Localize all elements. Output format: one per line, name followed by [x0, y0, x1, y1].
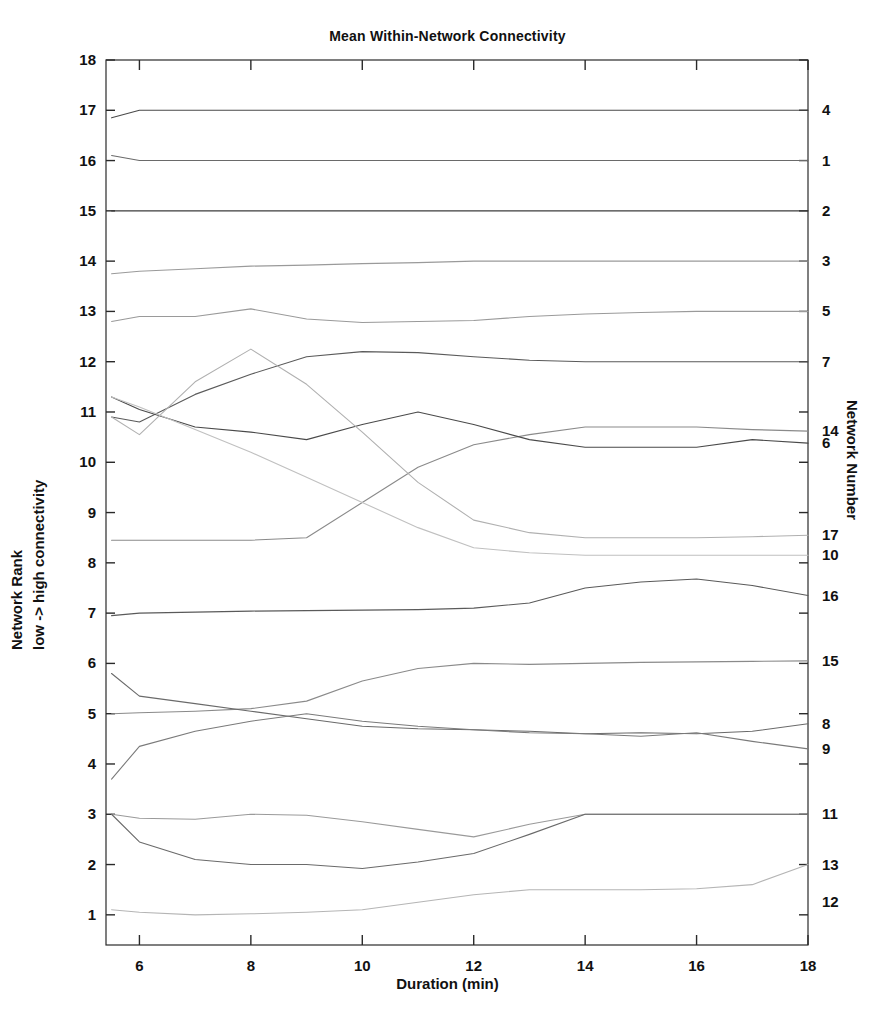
- network-number-label: 13: [822, 856, 839, 873]
- right-axis-label: Network Number: [845, 400, 895, 680]
- network-number-label: 12: [822, 893, 839, 910]
- network-number-label: 5: [822, 302, 830, 319]
- x-tick-label: 10: [354, 957, 371, 974]
- series-line-14: [112, 427, 808, 540]
- y-tick-label: 16: [79, 152, 96, 169]
- y-tick-label: 17: [79, 101, 96, 118]
- network-number-label: 3: [822, 252, 830, 269]
- series-line-16: [112, 579, 808, 616]
- plot-area: 1234567891011121314151617186810121416184…: [0, 0, 895, 1027]
- y-tick-label: 3: [88, 805, 96, 822]
- network-number-label: 7: [822, 353, 830, 370]
- network-number-label: 17: [822, 526, 839, 543]
- y-axis-label-line1: Network Rank: [8, 550, 25, 650]
- series-line-4: [112, 110, 808, 118]
- y-tick-label: 6: [88, 654, 96, 671]
- y-tick-label: 14: [79, 252, 96, 269]
- network-number-label: 2: [822, 202, 830, 219]
- y-tick-label: 10: [79, 453, 96, 470]
- network-number-label: 6: [822, 434, 830, 451]
- series-line-13: [112, 814, 808, 868]
- network-number-label: 4: [822, 101, 831, 118]
- y-tick-label: 1: [88, 906, 96, 923]
- x-tick-label: 12: [465, 957, 482, 974]
- y-tick-label: 9: [88, 504, 96, 521]
- network-number-label: 15: [822, 652, 839, 669]
- y-tick-label: 15: [79, 202, 96, 219]
- network-number-label: 9: [822, 740, 830, 757]
- y-tick-label: 7: [88, 604, 96, 621]
- right-axis-label-text: Network Number: [844, 400, 861, 520]
- series-line-6: [112, 397, 808, 447]
- y-axis-label-line2: low -> high connectivity: [30, 480, 47, 650]
- y-tick-label: 2: [88, 856, 96, 873]
- network-number-label: 10: [822, 546, 839, 563]
- series-line-17: [112, 349, 808, 538]
- series-line-12: [112, 865, 808, 915]
- y-tick-label: 13: [79, 302, 96, 319]
- y-tick-label: 18: [79, 51, 96, 68]
- network-number-label: 8: [822, 715, 830, 732]
- series-line-7: [112, 352, 808, 422]
- y-tick-label: 11: [80, 403, 96, 420]
- network-number-label: 11: [822, 805, 838, 822]
- series-line-10: [112, 397, 808, 555]
- y-tick-label: 8: [88, 554, 96, 571]
- network-number-label: 16: [822, 587, 839, 604]
- series-line-15: [112, 661, 808, 714]
- series-line-9: [112, 714, 808, 779]
- series-line-1: [112, 156, 808, 161]
- plot-frame: [106, 60, 808, 945]
- y-axis-label: Network Rank low -> high connectivity: [8, 400, 68, 660]
- network-number-label: 1: [822, 152, 830, 169]
- x-tick-label: 6: [135, 957, 143, 974]
- series-line-3: [112, 261, 808, 274]
- series-line-11: [112, 814, 808, 837]
- y-tick-label: 5: [88, 705, 96, 722]
- x-tick-label: 16: [688, 957, 705, 974]
- series-line-8: [112, 673, 808, 733]
- x-tick-label: 18: [800, 957, 817, 974]
- x-tick-label: 8: [247, 957, 255, 974]
- series-line-5: [112, 309, 808, 323]
- y-tick-label: 12: [79, 353, 96, 370]
- y-tick-label: 4: [88, 755, 97, 772]
- x-axis-label: Duration (min): [0, 975, 895, 992]
- chart-root: Mean Within-Network Connectivity 1234567…: [0, 0, 895, 1027]
- x-tick-label: 14: [577, 957, 594, 974]
